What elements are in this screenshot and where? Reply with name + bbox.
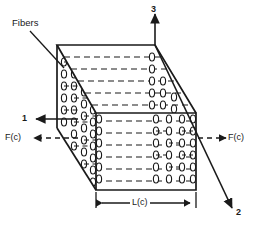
fiber-stubs-front <box>156 131 193 167</box>
length-label: L(c) <box>130 198 150 207</box>
composite-block-diagram <box>0 0 257 227</box>
axis-2-label: 2 <box>236 208 241 217</box>
axis-2-line <box>155 45 232 208</box>
fibers-label: Fibers <box>12 18 38 28</box>
axis-1-label: 1 <box>22 114 27 123</box>
fiber-cross-sections-front <box>96 115 195 183</box>
force-label-right: F(c) <box>228 133 244 142</box>
axis-3-label: 3 <box>151 5 156 14</box>
block-outline <box>57 45 196 190</box>
figure-canvas: Fibers 3 1 2 F(c) F(c) L(c) <box>0 0 257 227</box>
force-label-left: F(c) <box>5 133 21 142</box>
